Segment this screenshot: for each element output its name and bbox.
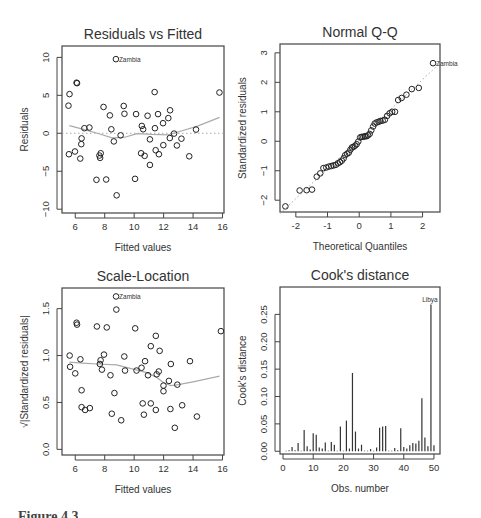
data-point bbox=[111, 139, 117, 145]
data-point bbox=[79, 136, 85, 142]
x-tick-label: 10 bbox=[129, 221, 140, 232]
data-point bbox=[109, 126, 115, 132]
data-point bbox=[67, 91, 73, 97]
x-tick-label: 12 bbox=[158, 221, 169, 232]
data-point bbox=[112, 390, 118, 396]
data-point bbox=[153, 333, 159, 339]
data-point bbox=[152, 125, 158, 131]
y-tick-label: 0.5 bbox=[40, 396, 51, 409]
x-axis-label: Theoretical Quantiles bbox=[313, 241, 408, 252]
data-point bbox=[78, 141, 84, 147]
y-tick-label: 0.25 bbox=[258, 305, 269, 324]
data-point bbox=[107, 113, 113, 119]
x-tick-label: 6 bbox=[73, 463, 78, 474]
x-tick-label: -1 bbox=[323, 220, 331, 231]
data-point bbox=[72, 371, 78, 377]
data-point bbox=[187, 358, 193, 364]
data-point bbox=[153, 407, 159, 413]
data-point bbox=[168, 361, 174, 367]
data-point bbox=[218, 328, 224, 334]
x-tick-label: 50 bbox=[429, 462, 440, 473]
data-point bbox=[109, 411, 115, 417]
data-point bbox=[309, 187, 315, 193]
x-tick-label: 6 bbox=[73, 221, 78, 232]
data-point bbox=[108, 372, 114, 378]
y-tick-label: 1 bbox=[258, 109, 269, 114]
chart-title: Cook's distance bbox=[311, 267, 410, 283]
chart-title: Normal Q-Q bbox=[322, 24, 398, 40]
data-point bbox=[297, 188, 303, 194]
y-tick-label: 10 bbox=[40, 52, 51, 63]
y-axis-label: Residuals bbox=[19, 108, 30, 152]
data-point bbox=[113, 56, 119, 62]
x-tick-label: 0 bbox=[280, 462, 285, 473]
y-tick-label: 5 bbox=[40, 93, 51, 98]
plot-frame bbox=[280, 287, 440, 454]
y-tick-label: 0 bbox=[40, 131, 51, 136]
data-point bbox=[166, 115, 172, 121]
data-point bbox=[140, 126, 146, 132]
data-point bbox=[99, 367, 105, 373]
data-point bbox=[101, 352, 107, 358]
data-point bbox=[72, 149, 78, 155]
y-axis-label: √|Standardized residuals| bbox=[19, 315, 30, 427]
chart-title: Residuals vs Fitted bbox=[84, 26, 202, 42]
x-tick-label: 20 bbox=[338, 462, 349, 473]
data-point bbox=[166, 378, 172, 384]
x-tick-label: 30 bbox=[368, 462, 379, 473]
data-point bbox=[147, 137, 153, 143]
data-point bbox=[147, 162, 153, 168]
x-tick-label: 0 bbox=[357, 220, 362, 231]
data-point bbox=[103, 177, 109, 183]
data-point bbox=[179, 136, 185, 142]
data-point bbox=[317, 171, 323, 177]
data-point bbox=[416, 85, 422, 91]
data-point bbox=[161, 142, 167, 148]
normal-qq-panel: Normal Q-Q-2-1012−2−10123Theoretical Qua… bbox=[237, 24, 458, 252]
data-point bbox=[157, 348, 163, 354]
x-tick-label: 8 bbox=[102, 463, 107, 474]
x-tick-label: 10 bbox=[308, 462, 319, 473]
data-point bbox=[179, 402, 185, 408]
x-tick-label: 8 bbox=[102, 221, 107, 232]
data-point bbox=[67, 364, 73, 370]
y-tick-label: 1.0 bbox=[40, 349, 51, 362]
data-point bbox=[145, 113, 151, 119]
y-axis-label: Cook's distance bbox=[237, 335, 248, 406]
data-point bbox=[113, 294, 119, 300]
y-tick-label: 3 bbox=[258, 50, 269, 55]
data-point bbox=[77, 156, 83, 162]
data-point bbox=[66, 151, 72, 157]
y-tick-label: −10 bbox=[40, 201, 51, 217]
data-point bbox=[94, 324, 100, 330]
data-point bbox=[155, 111, 161, 117]
data-point bbox=[174, 143, 180, 149]
data-point bbox=[161, 383, 167, 389]
x-tick-label: 14 bbox=[188, 463, 199, 474]
y-tick-label: 1.5 bbox=[40, 302, 51, 315]
data-point bbox=[114, 193, 120, 199]
x-tick-label: 14 bbox=[188, 221, 199, 232]
y-tick-label: −2 bbox=[258, 195, 269, 206]
data-point bbox=[160, 120, 166, 126]
data-point bbox=[79, 387, 85, 393]
y-tick-label: 0.20 bbox=[258, 333, 269, 352]
data-point bbox=[167, 135, 173, 141]
y-tick-label: 0.05 bbox=[258, 415, 269, 434]
data-point bbox=[101, 104, 107, 110]
data-point bbox=[132, 326, 138, 332]
data-point bbox=[94, 177, 100, 183]
data-point bbox=[139, 365, 145, 371]
data-point bbox=[87, 405, 93, 411]
x-tick-label: 10 bbox=[129, 463, 140, 474]
x-axis-label: Obs. number bbox=[331, 483, 389, 494]
data-point bbox=[161, 388, 167, 394]
data-point bbox=[141, 412, 147, 418]
data-point bbox=[167, 107, 173, 113]
data-point bbox=[121, 103, 127, 109]
y-tick-label: 2 bbox=[258, 80, 269, 85]
x-tick-label: 1 bbox=[388, 220, 393, 231]
data-point bbox=[139, 123, 145, 129]
y-tick-label: 0 bbox=[258, 139, 269, 144]
data-point bbox=[430, 60, 436, 66]
